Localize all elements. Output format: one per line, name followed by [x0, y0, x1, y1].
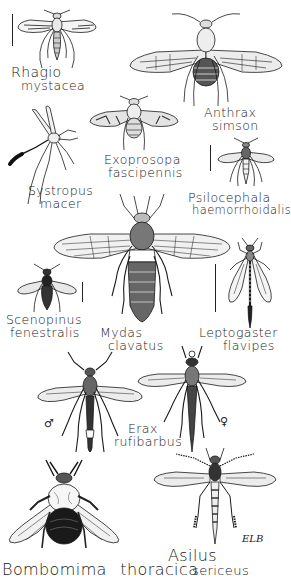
label-asilus: Asilus sericeus — [168, 548, 249, 578]
scale-bar-leptogaster — [215, 264, 216, 312]
species-asilus: sericeus — [192, 564, 249, 578]
genus-asilus: Asilus — [168, 548, 249, 564]
label-scenopinus: Scenopinus fenestralis — [6, 313, 82, 339]
psilocephala-illustration — [214, 138, 278, 198]
insect-plate: Rhagio mystacea Anthrax simson — [0, 0, 291, 582]
label-rhagio: Rhagio mystacea — [11, 66, 85, 92]
scale-bar-scenopinus — [82, 282, 83, 302]
genus-bombomima: Bombomima — [2, 560, 107, 579]
species-exoprosopa: fascipennis — [108, 166, 183, 179]
label-erax: Erax rufibarbus — [114, 422, 182, 448]
scenopinus-illustration — [12, 262, 82, 318]
species-anthrax: simson — [212, 119, 259, 132]
species-scenopinus: fenestralis — [10, 326, 82, 339]
label-anthrax: Anthrax simson — [204, 106, 259, 132]
label-exoprosopa: Exoprosopa fascipennis — [104, 153, 183, 179]
species-rhagio: mystacea — [21, 79, 85, 92]
female-symbol: ♀ — [220, 415, 228, 428]
bombomima-illustration — [4, 458, 124, 558]
scale-bar-psilocephala — [210, 145, 211, 171]
leptogaster-illustration — [218, 234, 282, 330]
exoprosopa-illustration — [86, 94, 182, 154]
male-symbol: ♂ — [44, 417, 54, 430]
artist-signature: ELB — [242, 533, 263, 544]
